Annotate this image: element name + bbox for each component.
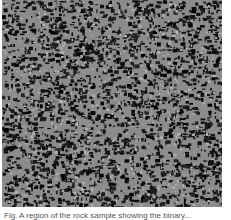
speckle-canvas: [2, 0, 222, 207]
texture-image: [2, 0, 222, 207]
figure-caption: Fig. A region of the rock sample showing…: [4, 211, 229, 220]
